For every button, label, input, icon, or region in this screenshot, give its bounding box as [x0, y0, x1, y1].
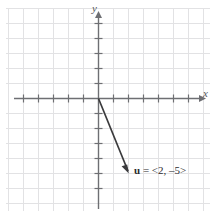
x-axis [14, 95, 206, 103]
vector-u-label: u = <2, –5> [134, 165, 186, 176]
coordinate-plane-svg [0, 0, 216, 218]
y-axis [95, 11, 103, 209]
vector-components: <2, –5> [152, 164, 186, 176]
vector-equals-sign: = [140, 164, 152, 176]
vector-diagram-figure: y x u = <2, –5> [0, 0, 216, 218]
x-axis-label: x [203, 88, 208, 99]
y-axis-label: y [92, 3, 97, 14]
